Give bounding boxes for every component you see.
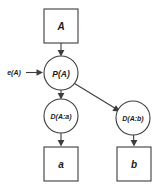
edge-pa-to-dab [75, 84, 121, 112]
node-circle-daa[interactable]: D(A:a) [44, 99, 78, 133]
diagram-svg: A P(A) D(A:a) D(A:b) a b e(A) [0, 0, 162, 186]
node-label-daa: D(A:a) [51, 113, 73, 121]
node-label-dab: D(A:b) [122, 115, 144, 123]
node-label-pa: P(A) [52, 69, 70, 79]
edge-a-to-pa [58, 43, 65, 57]
edge-dab-to-b [131, 135, 138, 147]
diagram-canvas: A P(A) D(A:a) D(A:b) a b e(A) [0, 0, 162, 186]
arrowhead-right-icon [37, 69, 44, 76]
arrowhead-down-icon [131, 140, 138, 147]
node-label-b: b [131, 159, 137, 170]
edge-pa-to-daa [58, 90, 65, 100]
node-box-b[interactable]: b [117, 147, 151, 181]
edge-label-excitation: e(A) [7, 69, 21, 77]
arrowhead-down-icon [58, 140, 65, 147]
edge-daa-to-a [58, 133, 65, 147]
node-circle-dab[interactable]: D(A:b) [116, 101, 150, 135]
node-box-a[interactable]: A [44, 9, 78, 43]
node-circle-pa[interactable]: P(A) [44, 56, 78, 90]
node-box-a-lower[interactable]: a [44, 147, 78, 181]
node-label-a-lower: a [58, 159, 64, 170]
node-label-a: A [56, 21, 64, 32]
edge-excitation-to-pa [26, 69, 43, 76]
